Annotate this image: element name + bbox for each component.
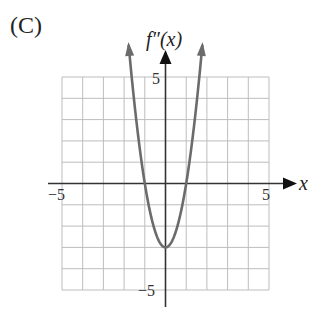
y-axis-label: f″(x) [146, 28, 182, 51]
arrowhead-icon [197, 42, 206, 56]
y-tick-5: 5 [152, 70, 160, 88]
y-tick-neg5: −5 [138, 282, 155, 300]
x-axis-label: x [299, 172, 308, 195]
x-tick-5: 5 [262, 186, 270, 204]
panel-label: (C) [10, 12, 42, 39]
arrowhead-icon [125, 42, 134, 56]
x-tick-neg5: −5 [48, 186, 65, 204]
